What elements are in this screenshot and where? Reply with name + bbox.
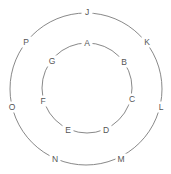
node-label: F	[40, 96, 45, 106]
node-label: A	[84, 38, 90, 48]
node-m: M	[116, 154, 127, 165]
node-g: G	[47, 56, 58, 67]
node-p: P	[21, 37, 32, 48]
node-n: N	[50, 154, 61, 165]
outer-ring	[10, 13, 162, 165]
node-label: G	[49, 56, 56, 66]
node-label: B	[121, 57, 127, 67]
node-l: L	[156, 102, 167, 113]
node-f: F	[38, 96, 49, 107]
node-label: D	[103, 125, 109, 135]
node-label: E	[65, 125, 71, 135]
node-label: O	[9, 102, 16, 112]
node-j: J	[82, 7, 93, 18]
inner-ring-nodes: ABCDEFG	[38, 38, 138, 136]
node-d: D	[101, 125, 112, 136]
node-label: C	[129, 94, 135, 104]
ring-diagram: JKLMNOP ABCDEFG	[0, 0, 171, 174]
node-o: O	[7, 102, 18, 113]
node-label: K	[144, 37, 150, 47]
node-b: B	[119, 57, 130, 68]
node-c: C	[127, 94, 138, 105]
node-e: E	[63, 125, 74, 136]
diagram-canvas: JKLMNOP ABCDEFG	[0, 0, 171, 174]
node-label: M	[117, 154, 124, 164]
node-k: K	[142, 37, 153, 48]
node-label: J	[85, 7, 89, 17]
node-label: P	[23, 37, 29, 47]
node-label: L	[159, 102, 164, 112]
node-label: N	[52, 154, 58, 164]
node-a: A	[82, 38, 93, 49]
